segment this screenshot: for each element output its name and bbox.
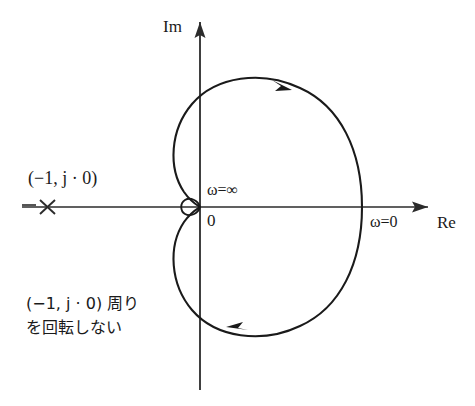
real-axis-label: Re (437, 212, 456, 233)
annotation-block: (−1, j · 0) 周り を回転しない (26, 294, 139, 342)
real-axis-group (22, 202, 428, 213)
critical-point-label: (−1, j · 0) (28, 167, 97, 190)
nyquist-plot-canvas (0, 0, 475, 406)
annotation-line-2: を回転しない (26, 318, 139, 338)
nyquist-figure: Im Re ω=∞ 0 ω=0 (−1, j · 0) (−1, j · 0) … (0, 0, 475, 406)
annotation-line-1: (−1, j · 0) 周り (26, 294, 139, 314)
nyquist-locus-upper (174, 78, 362, 207)
imaginary-axis-label: Im (163, 16, 182, 37)
direction-arrow-lower-icon (226, 322, 248, 330)
origin-label: 0 (207, 210, 216, 231)
omega-infinity-label: ω=∞ (207, 180, 238, 200)
omega-zero-label: ω=0 (370, 212, 398, 232)
nyquist-locus-lower (174, 207, 362, 336)
